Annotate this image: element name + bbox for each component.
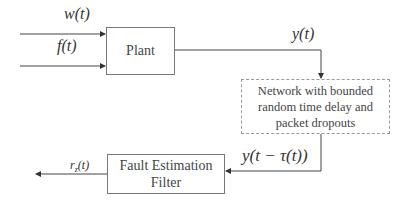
r-signal-label: rz(t)	[70, 158, 89, 174]
r-arg: (t)	[78, 158, 89, 172]
y-output-arrow	[175, 50, 321, 78]
network-label: Network with bounded random time delay a…	[246, 83, 385, 131]
network-block: Network with bounded random time delay a…	[241, 79, 390, 134]
plant-block: Plant	[106, 27, 175, 75]
f-signal-label: f(t)	[57, 37, 77, 55]
fault-estimation-filter-block: Fault Estimation Filter	[107, 154, 225, 194]
delayed-y-signal-label: y(t − τ(t))	[242, 146, 308, 166]
w-signal-label: w(t)	[64, 5, 90, 23]
filter-label: Fault Estimation Filter	[116, 157, 216, 191]
plant-label: Plant	[126, 43, 155, 59]
y-signal-label: y(t)	[292, 25, 314, 43]
